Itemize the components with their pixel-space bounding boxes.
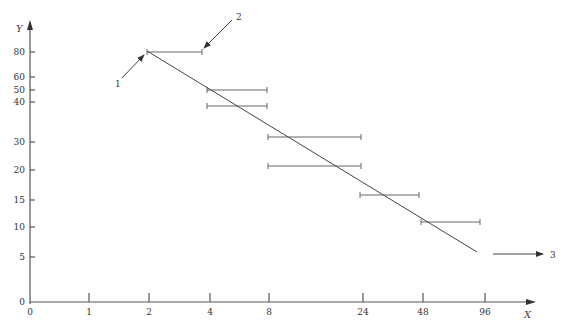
y-tick-label: 80 xyxy=(14,47,26,57)
y-tick-label: 5 xyxy=(19,252,25,262)
y-tick-label: 30 xyxy=(14,137,26,147)
trend-line xyxy=(147,51,477,252)
x-axis-label: X xyxy=(523,309,532,320)
diagram-canvas: Y 806050403020151050 X 01248244896 xyxy=(0,0,569,334)
x-tick-label: 48 xyxy=(417,307,429,317)
interval-bar xyxy=(421,219,480,225)
x-axis-arrow-icon xyxy=(526,299,536,305)
x-tick-label: 8 xyxy=(266,307,272,317)
x-tick-label: 0 xyxy=(27,307,33,317)
callout-1-label: 1 xyxy=(115,79,121,89)
y-tick-label: 50 xyxy=(14,85,26,95)
callout-3: 3 xyxy=(493,250,556,260)
y-tick-label: 20 xyxy=(14,165,26,175)
y-axis-arrow-icon xyxy=(27,20,33,30)
callout-3-label: 3 xyxy=(550,250,556,260)
callout-1-arrow-icon xyxy=(122,55,144,78)
interval-bar xyxy=(207,87,267,93)
interval-bar xyxy=(268,163,361,169)
interval-bar xyxy=(147,49,202,55)
y-tick-label: 15 xyxy=(14,195,26,205)
interval-bar xyxy=(360,192,419,198)
y-axis: Y 806050403020151050 xyxy=(14,20,35,307)
x-tick-label: 2 xyxy=(146,307,152,317)
y-axis-label: Y xyxy=(16,23,24,34)
callout-2-label: 2 xyxy=(236,12,242,22)
y-tick-label: 10 xyxy=(14,222,26,232)
x-axis: X 01248244896 xyxy=(27,293,536,320)
x-tick-label: 4 xyxy=(207,307,213,317)
callout-1: 1 xyxy=(115,55,144,89)
callout-2: 2 xyxy=(204,12,242,48)
interval-bars xyxy=(147,49,480,225)
callout-2-arrow-icon xyxy=(204,20,232,48)
y-tick-label: 60 xyxy=(14,72,26,82)
x-tick-label: 96 xyxy=(479,307,491,317)
y-tick-label: 40 xyxy=(14,97,26,107)
y-tick-label: 0 xyxy=(19,297,25,307)
x-tick-label: 1 xyxy=(86,307,92,317)
interval-bar xyxy=(268,134,361,140)
x-tick-label: 24 xyxy=(357,307,369,317)
